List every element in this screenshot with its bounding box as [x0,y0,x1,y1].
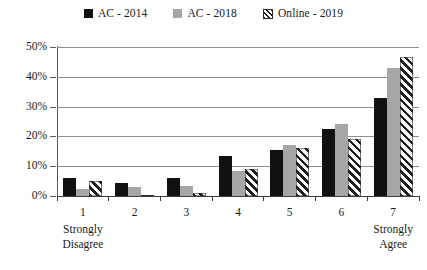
bar [180,186,193,196]
bar-group [316,47,368,196]
legend-item-online-2019: Online - 2019 [263,8,343,20]
bar [400,57,413,196]
bar [374,98,387,196]
x-axis-category: 6 [316,205,368,251]
x-axis-category: 5 [264,205,316,251]
bar-group [212,47,264,196]
x-axis-category: 4 [212,205,264,251]
y-axis-tick [50,166,56,167]
x-axis-tick-label: 3 [160,205,212,219]
legend-item-ac-2018: AC - 2018 [173,8,236,20]
x-axis-anchor-label: Strongly Agree [367,222,419,251]
legend-label: AC - 2018 [187,8,236,20]
x-axis-tick-cell [264,196,316,202]
y-axis-tick [50,136,56,137]
x-axis-category: 2 [109,205,161,251]
x-axis-tick-label: 7 [367,205,419,219]
x-axis-tick [263,196,264,201]
y-axis-tick-label: 30% [26,101,47,113]
bar [270,150,283,196]
bar-group [160,47,212,196]
x-axis-category: 7Strongly Agree [367,205,419,251]
y-axis-tick-label: 40% [26,71,47,83]
bar [322,129,335,196]
bar [89,181,102,196]
x-axis-tick-label: 4 [212,205,264,219]
x-axis-tick-cell [367,196,419,202]
y-axis-tick [50,47,56,48]
x-axis-tick [315,196,316,201]
y-axis-tick [50,77,56,78]
x-axis-tick [367,196,368,201]
x-axis-tick-cell [316,196,368,202]
x-axis-tick [212,196,213,201]
x-axis-labels: 1Strongly Disagree234567Strongly Agree [57,205,419,251]
x-axis-category: 3 [160,205,212,251]
legend-label: Online - 2019 [278,8,343,20]
bar [115,183,128,196]
x-axis-tick-cell [57,196,109,202]
y-axis-tick-label: 50% [26,41,47,53]
x-axis-tick [108,196,109,201]
bar-group [264,47,316,196]
x-axis-tick-label: 5 [264,205,316,219]
bar [167,178,180,196]
bar [348,139,361,196]
x-axis-tick-label: 1 [57,205,109,219]
bar-group [57,47,109,196]
x-axis-ticks [57,196,419,202]
y-axis: 0%10%20%30%40%50% [0,0,57,270]
bar [128,187,141,196]
black-square-icon [84,9,93,18]
x-axis-tick-label: 2 [109,205,161,219]
chart-legend: AC - 2014 AC - 2018 Online - 2019 [0,8,427,20]
bar [76,189,89,196]
hatched-square-icon [263,9,273,19]
legend-item-ac-2014: AC - 2014 [84,8,147,20]
bar [63,178,76,196]
plot-area [57,47,419,196]
bar-groups [57,47,419,196]
bar [245,169,258,196]
x-axis-tick [419,196,420,201]
x-axis-tick-cell [212,196,264,202]
x-axis-tick-cell [109,196,161,202]
y-axis-tick-label: 20% [26,131,47,143]
gray-square-icon [173,9,182,18]
x-axis-category: 1Strongly Disagree [57,205,109,251]
bar [219,156,232,196]
y-axis-tick [50,107,56,108]
x-axis-tick-label: 6 [316,205,368,219]
legend-label: AC - 2014 [98,8,147,20]
bar [283,145,296,196]
y-axis-tick-label: 0% [32,190,47,202]
x-axis-tick [160,196,161,201]
y-axis-tick [50,196,56,197]
x-axis-tick [57,196,58,201]
y-axis-tick-label: 10% [26,160,47,172]
x-axis-tick-cell [160,196,212,202]
bar-group [367,47,419,196]
bar [296,148,309,196]
x-axis-anchor-label: Strongly Disagree [57,222,109,251]
bar [232,171,245,196]
bar-group [109,47,161,196]
bar [387,68,400,196]
bar [335,124,348,196]
